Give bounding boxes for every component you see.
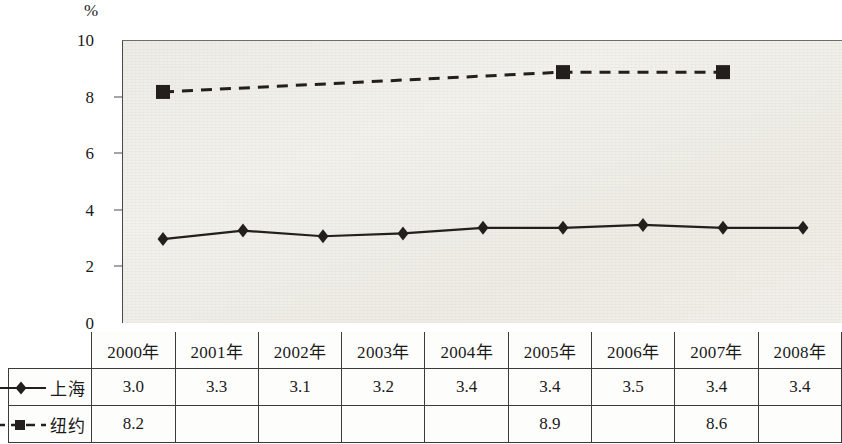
- line-chart-svg: [123, 41, 842, 324]
- data-point-marker: [638, 218, 649, 232]
- table-column-header: 2005年: [508, 332, 591, 369]
- table-cell-value: [258, 406, 341, 443]
- series-newyork: [156, 65, 730, 99]
- table-cell-value: [425, 406, 508, 443]
- y-axis-tick-label: 4: [86, 201, 95, 218]
- data-point-marker: [718, 221, 729, 235]
- table-cell-value: 3.1: [258, 369, 341, 406]
- table-cell-value: 8.9: [508, 406, 591, 443]
- data-point-marker: [478, 221, 489, 235]
- data-table: 2000年2001年2002年2003年2004年2005年2006年2007年…: [8, 332, 842, 443]
- table-column-header: 2002年: [258, 332, 341, 369]
- table-row: 纽约8.28.98.6: [9, 406, 842, 443]
- table-cell-value: [175, 406, 258, 443]
- table-header-row: 2000年2001年2002年2003年2004年2005年2006年2007年…: [9, 332, 842, 369]
- table-column-header: 2007年: [675, 332, 758, 369]
- table-cell-value: 3.4: [675, 369, 758, 406]
- table-column-header: 2008年: [758, 332, 841, 369]
- plot-area: [122, 40, 842, 323]
- data-point-marker: [318, 229, 329, 243]
- table-cell-value: 3.4: [508, 369, 591, 406]
- data-point-marker: [558, 221, 569, 235]
- table-row: 上海3.03.33.13.23.43.43.53.43.4: [9, 369, 842, 406]
- y-axis-tick-label: 10: [77, 32, 94, 49]
- data-point-marker: [798, 221, 809, 235]
- table-cell-value: 3.5: [592, 369, 675, 406]
- data-point-marker: [158, 232, 169, 246]
- series-shanghai: [158, 218, 809, 246]
- table-cell-value: 8.6: [675, 406, 758, 443]
- y-axis-tick-label: 8: [86, 88, 95, 105]
- chart-region: 1086420: [0, 0, 842, 332]
- table-cell-value: [592, 406, 675, 443]
- table-cell-value: 3.3: [175, 369, 258, 406]
- y-axis-tick-label: 6: [86, 145, 95, 162]
- table-column-header: 2004年: [425, 332, 508, 369]
- table-cell-value: [758, 406, 841, 443]
- data-table-container: 2000年2001年2002年2003年2004年2005年2006年2007年…: [8, 332, 842, 444]
- series-legend-cell: 上海: [9, 369, 92, 406]
- table-corner-cell: [9, 332, 92, 369]
- table-column-header: 2006年: [592, 332, 675, 369]
- series-name-label: 纽约: [50, 412, 86, 437]
- legend-line-icon: [0, 380, 47, 394]
- y-axis-tick-label: 0: [86, 315, 95, 332]
- table-cell-value: [342, 406, 425, 443]
- table-cell-value: 8.2: [92, 406, 175, 443]
- legend-symbol-diamond: [0, 381, 47, 395]
- table-column-header: 2000年: [92, 332, 175, 369]
- data-point-marker: [238, 224, 249, 238]
- chart-page: % 1086420 2000年2001年2002年2003年2004年2005年…: [0, 0, 842, 444]
- legend-symbol-square: [0, 418, 47, 432]
- y-axis: 1086420: [0, 0, 122, 332]
- data-point-marker: [556, 65, 570, 79]
- table-cell-value: 3.4: [425, 369, 508, 406]
- table-cell-value: 3.0: [92, 369, 175, 406]
- data-point-marker: [398, 226, 409, 240]
- legend-line-icon: [0, 417, 47, 431]
- table-column-header: 2003年: [342, 332, 425, 369]
- series-legend-cell: 纽约: [9, 406, 92, 443]
- table-column-header: 2001年: [175, 332, 258, 369]
- table-cell-value: 3.4: [758, 369, 841, 406]
- y-axis-tick-label: 2: [86, 258, 95, 275]
- table-cell-value: 3.2: [342, 369, 425, 406]
- data-point-marker: [156, 85, 170, 99]
- series-name-label: 上海: [50, 375, 86, 400]
- data-point-marker: [716, 65, 730, 79]
